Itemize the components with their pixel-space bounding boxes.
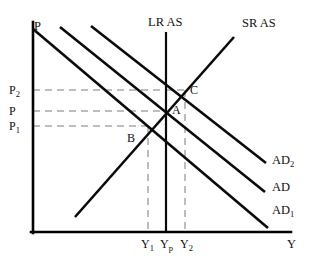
curve-label-ad1-sub: 1 bbox=[290, 209, 294, 219]
curve-label-ad-base: AD bbox=[272, 180, 290, 194]
ad-as-diagram: P Y P2 P P1 Y1 Yp Y2 LR AS SR AS AD2 AD … bbox=[0, 0, 312, 266]
tick-label-p2-sub: 2 bbox=[16, 89, 20, 99]
curve-label-ad1: AD1 bbox=[272, 204, 294, 217]
y-axis-label: P bbox=[34, 20, 41, 33]
curve-label-ad2-sub: 2 bbox=[290, 159, 294, 169]
x-axis-label: Y bbox=[287, 238, 296, 251]
tick-label-p: P bbox=[9, 105, 16, 117]
tick-label-y1: Y1 bbox=[141, 238, 154, 250]
tick-label-p-base: P bbox=[9, 104, 16, 118]
curve-sras bbox=[75, 37, 234, 217]
aggregate-demand-curves-group bbox=[33, 26, 268, 228]
tick-label-p2-base: P bbox=[9, 83, 16, 97]
tick-label-yp: Yp bbox=[160, 238, 173, 250]
point-label-c: C bbox=[190, 84, 198, 96]
axes-group bbox=[31, 22, 291, 233]
curve-label-sras: SR AS bbox=[242, 17, 276, 30]
tick-label-p1-base: P bbox=[9, 119, 16, 133]
curve-ad2 bbox=[91, 26, 266, 163]
tick-label-p2: P2 bbox=[9, 84, 20, 96]
curve-label-ad2: AD2 bbox=[272, 154, 294, 167]
tick-label-yp-sub: p bbox=[169, 243, 173, 253]
curve-ad1 bbox=[33, 29, 268, 228]
curve-ad bbox=[60, 27, 265, 192]
tick-label-y2-sub: 2 bbox=[189, 243, 193, 253]
curve-label-ad2-base: AD bbox=[272, 153, 290, 167]
tick-label-y1-sub: 1 bbox=[150, 243, 154, 253]
tick-label-p1-sub: 1 bbox=[16, 125, 20, 135]
tick-label-y2: Y2 bbox=[180, 238, 193, 250]
point-label-b: B bbox=[127, 132, 135, 144]
curve-label-lras: LR AS bbox=[148, 16, 182, 29]
tick-label-p1: P1 bbox=[9, 120, 20, 132]
tick-label-y2-base: Y bbox=[180, 237, 189, 251]
curve-label-ad1-base: AD bbox=[272, 203, 290, 217]
tick-label-yp-base: Y bbox=[160, 237, 169, 251]
diagram-canvas bbox=[0, 0, 312, 266]
point-label-a: A bbox=[172, 104, 181, 116]
guide-lines-group bbox=[33, 90, 185, 232]
tick-label-y1-base: Y bbox=[141, 237, 150, 251]
curve-label-ad: AD bbox=[272, 181, 290, 194]
